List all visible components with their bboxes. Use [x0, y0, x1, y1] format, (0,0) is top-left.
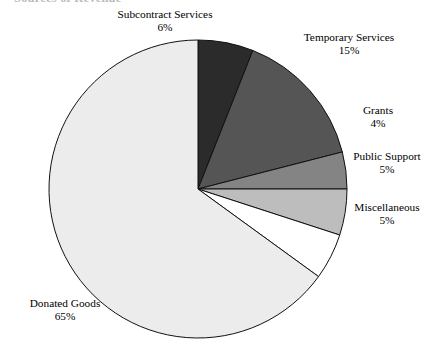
slice-label-grants: Grants 4% [334, 104, 422, 129]
slice-label-donated-goods: Donated Goods 65% [6, 297, 124, 322]
slice-label-percent: 15% [274, 44, 424, 57]
slice-label-temporary-services: Temporary Services 15% [274, 31, 424, 56]
slice-label-percent: 4% [334, 117, 422, 130]
slice-label-percent: 5% [344, 163, 430, 176]
pie-slice-group [49, 40, 347, 338]
slice-label-subcontract-services: Subcontract Services 6% [101, 8, 229, 33]
slice-label-name: Public Support [344, 150, 430, 163]
slice-label-public-support: Public Support 5% [344, 150, 430, 175]
slice-label-name: Donated Goods [6, 297, 124, 310]
slice-label-percent: 6% [101, 21, 229, 34]
slice-label-name: Temporary Services [274, 31, 424, 44]
slice-label-name: Grants [334, 104, 422, 117]
slice-label-percent: 65% [6, 310, 124, 323]
slice-label-percent: 5% [344, 214, 430, 227]
slice-label-name: Miscellaneous [344, 201, 430, 214]
pie-chart-figure: Sources of Revenue Subcontract Services … [0, 0, 430, 350]
slice-label-name: Subcontract Services [101, 8, 229, 21]
slice-label-miscellaneous: Miscellaneous 5% [344, 201, 430, 226]
